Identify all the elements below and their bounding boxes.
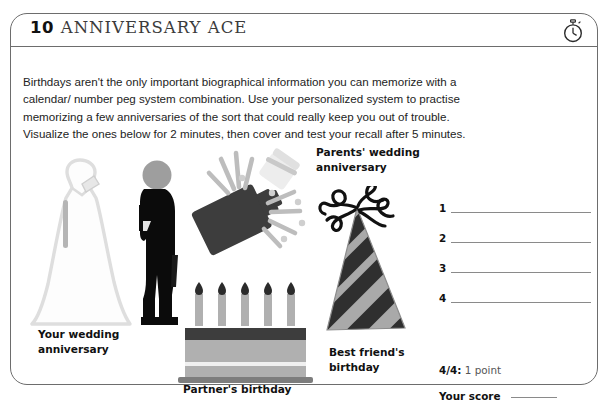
champagne-bottle-popping-icon <box>176 147 311 267</box>
points-rule: 4/4: 1 point <box>439 363 594 377</box>
your-score-input-line[interactable] <box>511 388 557 398</box>
caption-your-wedding-anniversary: Your wedding anniversary <box>38 327 158 356</box>
answer-input-line[interactable] <box>451 242 591 243</box>
caption-partners-birthday: Partner's birthday <box>183 382 343 397</box>
points-value: 1 point <box>461 364 501 376</box>
page-title: 10ANNIVERSARY ACE <box>30 20 247 37</box>
answer-row[interactable]: 2 <box>439 216 591 246</box>
exercise-card: 10ANNIVERSARY ACE Birthdays aren't the o… <box>10 13 598 385</box>
your-score-row[interactable]: Your score <box>439 388 594 404</box>
answer-number: 2 <box>439 232 446 244</box>
caption-line-1: Parents' wedding <box>316 146 420 158</box>
answer-row[interactable]: 1 <box>439 186 591 216</box>
your-score-label: Your score <box>439 390 501 402</box>
answer-lines-group: 1 2 3 4 <box>439 186 591 306</box>
caption-parents-wedding-anniversary: Parents' wedding anniversary <box>316 145 466 174</box>
answer-row[interactable]: 4 <box>439 276 591 306</box>
caption-line-1: Your wedding <box>38 328 119 340</box>
exercise-number: 10 <box>30 18 54 37</box>
points-threshold: 4/4: <box>439 364 461 376</box>
answer-number: 4 <box>439 292 446 304</box>
birthday-cake-icon <box>173 272 318 384</box>
caption-line-2: birthday <box>329 361 379 373</box>
caption-line-2: anniversary <box>38 343 109 355</box>
caption-best-friends-birthday: Best friend's birthday <box>329 345 449 374</box>
stopwatch-icon <box>562 19 584 43</box>
answer-number: 3 <box>439 262 446 274</box>
scoring-section: 4/4: 1 point Your score <box>439 363 594 404</box>
answer-row[interactable]: 3 <box>439 246 591 276</box>
answer-input-line[interactable] <box>451 302 591 303</box>
caption-line-2: anniversary <box>316 161 387 173</box>
instructions-text: Birthdays aren't the only important biog… <box>23 73 487 143</box>
exercise-title: ANNIVERSARY ACE <box>61 18 248 37</box>
answer-input-line[interactable] <box>451 272 591 273</box>
card-header: 10ANNIVERSARY ACE <box>11 14 597 47</box>
caption-line-1: Best friend's <box>329 346 405 358</box>
party-hat-icon <box>313 186 413 341</box>
answer-number: 1 <box>439 202 446 214</box>
answer-input-line[interactable] <box>451 212 591 213</box>
